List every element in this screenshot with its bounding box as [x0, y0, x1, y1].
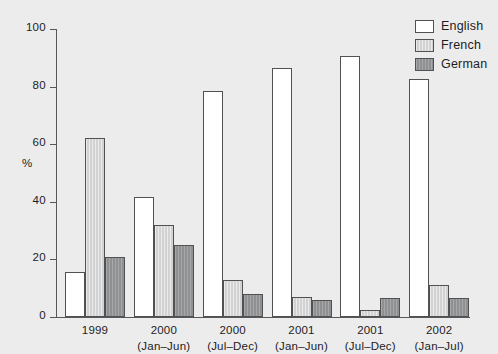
y-tick-mark	[50, 259, 57, 260]
x-axis-label-year: 2000	[151, 324, 177, 336]
y-tick-label: 100	[26, 21, 46, 33]
legend-label-french: French	[441, 38, 481, 52]
bar-english-3	[272, 68, 292, 317]
bar-french-1	[154, 225, 174, 317]
x-axis-label-5: 2002(Jan–Jul)	[394, 322, 484, 354]
legend-item-german: German	[415, 55, 487, 73]
bar-english-2	[203, 91, 223, 317]
bar-english-5	[409, 79, 429, 317]
x-axis-label-year: 2001	[357, 324, 383, 336]
y-tick-mark	[50, 29, 57, 30]
y-tick-label: 0	[39, 309, 46, 321]
legend-swatch-german-icon	[415, 58, 434, 71]
x-axis-label-period: (Jan–Jul)	[394, 338, 484, 354]
y-tick-mark	[50, 317, 57, 318]
x-axis-label-year: 1999	[82, 324, 108, 336]
bar-german-4	[380, 298, 400, 317]
legend-swatch-french-icon	[415, 39, 434, 52]
bar-english-4	[340, 56, 360, 317]
bar-french-3	[292, 297, 312, 317]
bar-german-2	[243, 294, 263, 317]
legend: English French German	[415, 17, 487, 74]
y-tick-label: 60	[33, 136, 46, 148]
y-tick-mark	[50, 144, 57, 145]
x-axis-label-year: 2001	[288, 324, 314, 336]
y-axis-title: %	[22, 157, 32, 169]
plot-area	[57, 29, 470, 317]
y-tick-label: 40	[33, 194, 46, 206]
legend-label-english: English	[441, 19, 483, 33]
x-axis-label-year: 2002	[426, 324, 452, 336]
legend-item-english: English	[415, 17, 487, 35]
bar-german-3	[312, 300, 332, 317]
legend-label-german: German	[441, 57, 487, 71]
bar-english-1	[134, 197, 154, 317]
bar-english-0	[65, 272, 85, 317]
y-tick-label: 20	[33, 251, 46, 263]
y-tick-label: 80	[33, 79, 46, 91]
legend-swatch-english-icon	[415, 20, 434, 33]
bar-french-4	[360, 310, 380, 317]
bar-french-0	[85, 138, 105, 317]
x-axis-label-year: 2000	[219, 324, 245, 336]
bar-german-5	[449, 298, 469, 317]
legend-item-french: French	[415, 36, 487, 54]
bar-french-2	[223, 280, 243, 317]
y-tick-mark	[50, 87, 57, 88]
y-tick-mark	[50, 202, 57, 203]
bar-french-5	[429, 285, 449, 317]
x-axis-line	[56, 317, 470, 318]
bar-german-1	[174, 245, 194, 317]
bar-german-0	[105, 257, 125, 317]
